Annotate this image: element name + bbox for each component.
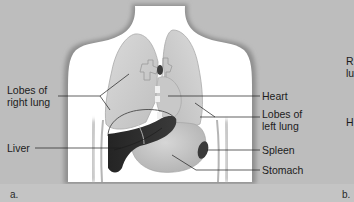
panel-letter-b: b. <box>342 189 350 200</box>
panel-b-fragment-r: R <box>346 55 354 67</box>
label-spleen: Spleen <box>262 144 295 156</box>
label-liver: Liver <box>7 142 30 154</box>
panel-b-fragment-h: H <box>346 116 354 128</box>
vessel-1 <box>155 86 160 93</box>
label-lobes-left-lung-line1: Lobes of <box>262 108 302 120</box>
panel-b-fragment-lu: lu <box>346 67 354 79</box>
panel-letter-a: a. <box>10 189 18 200</box>
aorta-dark <box>157 65 163 75</box>
label-lobes-right-lung-line2: right lung <box>7 96 50 108</box>
bottom-band <box>0 184 354 202</box>
right-arm-crease <box>92 120 94 182</box>
label-lobes-right-lung: Lobes of right lung <box>7 84 50 108</box>
label-heart: Heart <box>262 90 288 102</box>
label-lobes-left-lung-line2: left lung <box>262 120 302 132</box>
label-lobes-left-lung: Lobes of left lung <box>262 108 302 132</box>
anatomy-figure: Lobes of right lung Liver Heart Lobes of… <box>0 0 354 202</box>
vessel-3 <box>157 112 162 119</box>
vessel-2 <box>155 96 160 102</box>
label-stomach: Stomach <box>262 164 303 176</box>
left-arm-crease <box>226 120 228 182</box>
label-lobes-right-lung-line1: Lobes of <box>7 84 50 96</box>
